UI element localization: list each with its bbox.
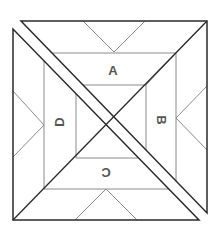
label-a: A [108,63,118,78]
label-d: D [52,117,67,126]
lower-piece-details [13,0,220,220]
diagram: A B C D [0,0,220,231]
label-b: B [154,115,169,124]
label-c: C [101,165,111,180]
